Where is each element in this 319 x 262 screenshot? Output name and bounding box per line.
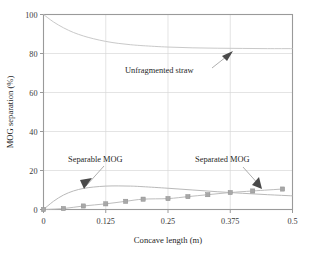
data-point-separated-mog-4 xyxy=(124,199,128,203)
data-point-separated-mog-9 xyxy=(228,190,232,194)
y-tick-label-20: 20 xyxy=(29,167,37,176)
data-point-separated-mog-2 xyxy=(81,204,85,208)
data-point-separated-mog-0 xyxy=(41,207,45,211)
data-point-separated-mog-5 xyxy=(141,197,145,201)
x-tick-label-0.125: 0.125 xyxy=(97,217,115,226)
data-point-separated-mog-11 xyxy=(280,187,284,191)
y-tick-label-0: 0 xyxy=(33,206,37,215)
y-axis-title: MOG separation (%) xyxy=(5,76,15,149)
data-point-separated-mog-1 xyxy=(61,206,65,210)
annotation-separable-mog-leader xyxy=(86,166,104,186)
x-axis-tick-labels: 00.1250.250.3750.5 xyxy=(41,217,297,226)
chart-figure: 020406080100 00.1250.250.3750.5 Concave … xyxy=(0,0,319,262)
y-tick-label-40: 40 xyxy=(29,128,37,137)
data-point-separated-mog-10 xyxy=(251,189,255,193)
annotation-separated-mog-label: Separated MOG xyxy=(195,155,250,164)
y-tick-label-60: 60 xyxy=(29,89,37,98)
x-tick-label-0.25: 0.25 xyxy=(161,217,175,226)
y-tick-label-80: 80 xyxy=(29,50,37,59)
annotation-separable-mog-label: Separable MOG xyxy=(68,155,123,164)
y-tick-label-100: 100 xyxy=(25,11,37,20)
annotation-unfragmented-straw-arrowhead xyxy=(222,51,233,61)
data-point-separated-mog-8 xyxy=(206,193,210,197)
series-separated-mog-line xyxy=(44,189,283,209)
x-axis-title: Concave length (m) xyxy=(134,235,202,245)
series-separated-mog-markers xyxy=(41,187,284,212)
data-point-separated-mog-3 xyxy=(104,202,108,206)
y-axis-tick-labels: 020406080100 xyxy=(25,11,37,215)
data-point-separated-mog-7 xyxy=(186,195,190,199)
x-tick-label-0.375: 0.375 xyxy=(221,217,239,226)
annotation-unfragmented-straw-label: Unfragmented straw xyxy=(125,66,195,75)
mog-separation-chart: 020406080100 00.1250.250.3750.5 Concave … xyxy=(0,0,319,262)
data-point-separated-mog-6 xyxy=(166,196,170,200)
x-tick-label-0.5: 0.5 xyxy=(287,217,297,226)
x-tick-label-0: 0 xyxy=(41,217,45,226)
